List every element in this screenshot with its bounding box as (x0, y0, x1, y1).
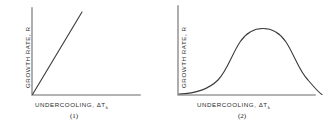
x-axis-label-2: UNDERCOOLING, ΔTk (197, 101, 270, 110)
x-axis-label-2-text: UNDERCOOLING, ΔT (197, 101, 268, 108)
data-curve-linear (33, 12, 83, 95)
panel-number-1: (1) (70, 112, 78, 120)
chart-panel-1: GROWTH RATE, R UNDERCOOLING, ΔTk (1) (0, 0, 164, 131)
data-curve-bell (179, 29, 322, 95)
x-axis-label-1-text: UNDERCOOLING, ΔT (35, 101, 106, 108)
axes-2 (178, 6, 315, 95)
figure-root: GROWTH RATE, R UNDERCOOLING, ΔTk (1) GRO… (0, 0, 328, 131)
x-axis-label-1-subscript: k (106, 105, 108, 110)
x-axis-label-2-subscript: k (268, 105, 270, 110)
y-axis-label-1: GROWTH RATE, R (24, 26, 31, 88)
x-axis-label-1: UNDERCOOLING, ΔTk (35, 101, 108, 110)
y-axis-label-2: GROWTH RATE, R (180, 26, 187, 88)
panel-number-2: (2) (238, 112, 246, 120)
chart-panel-2: GROWTH RATE, R UNDERCOOLING, ΔTk (2) (164, 0, 328, 131)
axes-1 (32, 8, 140, 95)
